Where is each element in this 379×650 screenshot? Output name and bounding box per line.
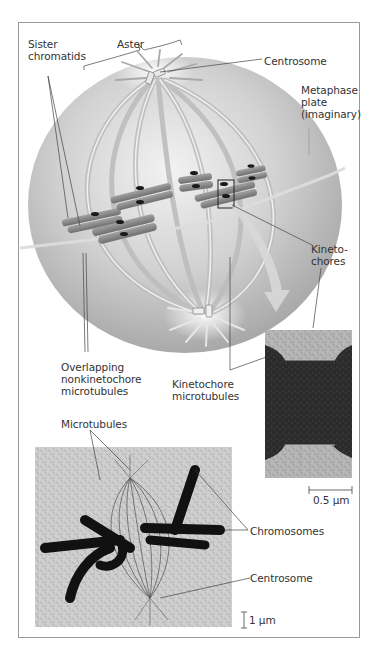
label-metaphase-plate: Metaphase plate (imaginary) [301,84,361,120]
electron-micrograph-inset [265,330,352,478]
label-em-scale: 0.5 µm [313,494,349,506]
light-micrograph [35,447,232,627]
label-microtubules: Microtubules [61,418,127,430]
micrograph-scale-bar [241,612,247,628]
label-centrosome-bottom: Centrosome [250,572,313,584]
label-aster: Aster [117,38,144,50]
spindle-cell-sphere [20,50,345,353]
label-micrograph-scale: 1 µm [249,614,276,626]
label-sister-chromatids: Sister chromatids [28,38,86,62]
label-centrosome-top: Centrosome [264,55,327,67]
label-chromosomes: Chromosomes [250,525,324,537]
em-scale-bar [309,486,352,494]
label-overlapping-nonkinetochore-microtubules: Overlapping nonkinetochore microtubules [61,361,141,397]
label-kinetochores: Kineto- chores [311,243,348,267]
label-kinetochore-microtubules: Kinetochore microtubules [172,378,239,402]
